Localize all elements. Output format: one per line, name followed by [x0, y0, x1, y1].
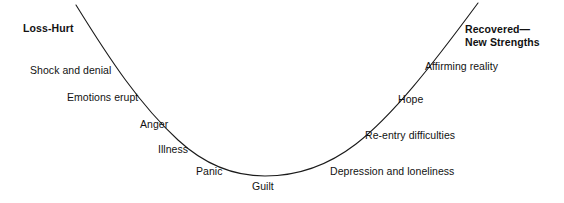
label-affirming-reality: Affirming reality — [425, 60, 498, 72]
label-shock-and-denial: Shock and denial — [30, 64, 111, 76]
label-guilt: Guilt — [252, 180, 274, 192]
label-recovered-new-strengths: Recovered— New Strengths — [465, 23, 540, 48]
label-depression-and-loneliness: Depression and loneliness — [330, 165, 454, 177]
label-anger: Anger — [140, 118, 168, 130]
label-panic: Panic — [196, 165, 223, 177]
grief-curve-diagram: Loss-Hurt Shock and denial Emotions erup… — [0, 0, 564, 203]
label-illness: Illness — [158, 143, 188, 155]
label-loss-hurt: Loss-Hurt — [23, 22, 73, 34]
label-recovered-line1: Recovered— — [465, 23, 540, 36]
label-re-entry-difficulties: Re-entry difficulties — [365, 129, 455, 141]
label-emotions-erupt: Emotions erupt — [67, 91, 138, 103]
label-hope: Hope — [398, 93, 423, 105]
label-recovered-line2: New Strengths — [465, 36, 540, 49]
